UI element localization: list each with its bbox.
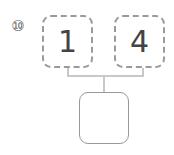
connector-stem: [103, 75, 105, 92]
input-box-right: 4: [114, 15, 165, 68]
connector-bar: [67, 75, 144, 77]
answer-box[interactable]: [79, 92, 129, 144]
input-box-left: 1: [42, 15, 93, 68]
problem-number-label: ⑩: [8, 16, 28, 36]
